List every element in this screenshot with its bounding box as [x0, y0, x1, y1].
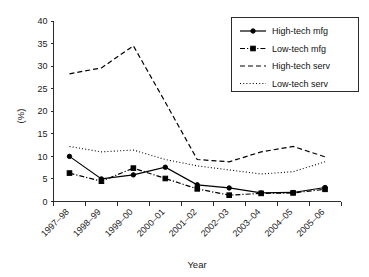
data-point-marker — [227, 186, 231, 190]
data-point-marker — [131, 173, 135, 177]
data-point-marker — [99, 179, 104, 184]
y-tick-label: 40 — [37, 16, 47, 26]
data-point-marker — [195, 187, 200, 192]
data-point-marker — [67, 171, 72, 176]
data-point-marker — [163, 176, 168, 181]
data-point-marker — [163, 165, 167, 169]
y-tick-label: 5 — [42, 174, 47, 184]
y-tick-label: 20 — [37, 106, 47, 116]
legend-label: High-tech serv — [272, 61, 331, 71]
x-tick-label: 2005–06 — [295, 207, 327, 239]
data-point-marker — [323, 187, 328, 192]
y-axis-title: (%) — [15, 109, 26, 124]
x-tick-label: 1997–98 — [39, 207, 71, 239]
x-tick-label: 2002–03 — [199, 207, 231, 239]
chart-figure: 0510152025303540 1997–981998–991999–0020… — [0, 0, 369, 277]
x-tick-label: 1999–00 — [103, 207, 135, 239]
y-tick-label: 10 — [37, 152, 47, 162]
x-axis-title: Year — [187, 259, 206, 270]
y-tick-label: 30 — [37, 61, 47, 71]
data-point-marker — [67, 154, 71, 158]
legend-label: Low-tech serv — [272, 79, 329, 89]
x-tick-label: 2003–04 — [231, 207, 263, 239]
y-tick-label: 25 — [37, 84, 47, 94]
y-tick-label: 0 — [42, 197, 47, 207]
legend: High-tech mfgLow-tech mfgHigh-tech servL… — [232, 18, 359, 92]
data-point-marker — [227, 193, 232, 198]
line-chart: 0510152025303540 1997–981998–991999–0020… — [0, 0, 369, 277]
y-tick-label: 35 — [37, 39, 47, 49]
x-tick-group — [54, 202, 342, 206]
legend-label: Low-tech mfg — [272, 44, 326, 54]
x-tick-label: 2004–05 — [263, 207, 295, 239]
x-tick-label: 1998–99 — [71, 207, 103, 239]
series-low-tech-serv — [69, 146, 325, 174]
series-low-tech-mfg — [67, 166, 327, 198]
series-line — [69, 146, 325, 174]
x-tick-label: 2000–01 — [135, 207, 167, 239]
data-point-marker — [291, 191, 296, 196]
x-tick-label: 2001–02 — [167, 207, 199, 239]
data-point-marker — [251, 29, 255, 33]
x-tick-label-group: 1997–981998–991999–002000–012001–022002–… — [39, 207, 326, 239]
y-tick-label-group: 0510152025303540 — [37, 16, 47, 207]
data-point-marker — [131, 166, 136, 171]
data-point-marker — [251, 46, 256, 51]
legend-label: High-tech mfg — [272, 26, 328, 36]
y-tick-label: 15 — [37, 129, 47, 139]
data-point-marker — [259, 191, 264, 196]
